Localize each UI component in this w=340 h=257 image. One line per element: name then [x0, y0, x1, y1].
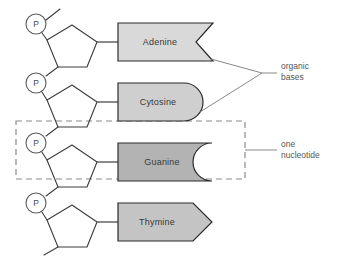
- base-label-guanine: Guanine: [144, 157, 179, 167]
- annotation-organic-bases-line2: bases: [281, 72, 304, 82]
- phosphate-label-1: P: [33, 19, 39, 29]
- sugar-pentagon-3: [47, 145, 97, 187]
- annotation-one-nucleotide-line1: one: [281, 139, 295, 149]
- base-label-cytosine: Cytosine: [140, 97, 177, 107]
- sugar-pentagon-1: [47, 25, 97, 67]
- phosphate-label-4: P: [33, 198, 39, 208]
- annotation-organic-bases: organic bases: [200, 59, 310, 112]
- annotation-one-nucleotide: one nucleotide: [245, 139, 320, 160]
- phosphate-label-3: P: [33, 138, 39, 148]
- backbone-chain-top: [46, 9, 60, 20]
- nucleotide-cytosine: P Cytosine: [26, 67, 203, 127]
- bond-sugar2-phosphate3: [46, 127, 58, 136]
- backbone-chain-bottom: [44, 247, 58, 255]
- base-label-thymine: Thymine: [139, 217, 175, 227]
- base-label-adenine: Adenine: [143, 37, 177, 47]
- leader-line-adenine: [211, 59, 262, 73]
- dna-nucleotide-diagram: P Adenine P Cytosine P: [0, 0, 340, 257]
- leader-line-cytosine: [200, 73, 262, 112]
- nucleotide-guanine: P Guanine: [26, 127, 212, 187]
- nucleotide-thymine: P Thymine: [26, 187, 212, 255]
- bond-sugar3-phosphate4: [46, 187, 58, 196]
- sugar-pentagon-4: [47, 205, 97, 247]
- phosphate-label-2: P: [33, 78, 39, 88]
- annotation-organic-bases-line1: organic: [281, 61, 310, 71]
- diagram-canvas: P Adenine P Cytosine P: [0, 0, 340, 257]
- bond-sugar1-phosphate2: [46, 67, 58, 76]
- annotation-one-nucleotide-line2: nucleotide: [281, 150, 320, 160]
- nucleotide-adenine: P Adenine: [26, 9, 213, 67]
